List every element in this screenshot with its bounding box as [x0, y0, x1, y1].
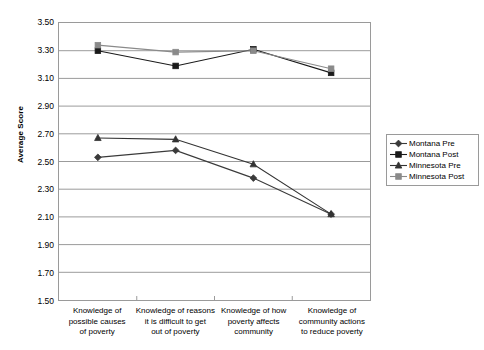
plot-svg — [59, 23, 370, 300]
y-tick-label: 2.30 — [20, 185, 54, 194]
data-point-marker — [396, 174, 402, 180]
data-point-marker — [395, 140, 402, 147]
y-tick-label: 2.50 — [20, 157, 54, 166]
x-axis-label-line: Knowledge of — [288, 306, 376, 317]
series-line-3 — [98, 45, 331, 69]
x-axis-label-1: Knowledge of reasonsit is difficult to g… — [131, 306, 219, 338]
data-point-marker — [94, 154, 101, 161]
x-axis-label-2: Knowledge of howpoverty affectscommunity — [210, 306, 298, 338]
legend-marker-diamond-icon — [389, 138, 408, 149]
x-axis-label-line: Knowledge of reasons — [131, 306, 219, 317]
legend-item-1[interactable]: Montana Post — [389, 149, 475, 160]
y-tick-label: 1.50 — [20, 297, 54, 306]
data-point-marker — [328, 66, 334, 72]
data-point-marker — [251, 48, 257, 54]
x-axis-label-line: poverty affects — [210, 317, 298, 328]
x-axis-label-line: it is difficult to get — [131, 317, 219, 328]
legend-label-3: Minnesota Post — [408, 171, 464, 182]
y-tick-label: 1.90 — [20, 241, 54, 250]
y-tick-label: 3.50 — [20, 18, 54, 27]
data-point-marker — [173, 63, 179, 69]
x-axis-label-line: out of poverty — [131, 327, 219, 338]
data-point-marker — [172, 147, 179, 154]
legend-marker-square-dark-icon — [389, 149, 408, 160]
x-axis-label-3: Knowledge ofcommunity actionsto reduce p… — [288, 306, 376, 338]
y-axis-tick-labels: 3.503.303.102.902.702.502.302.101.901.70… — [16, 0, 54, 350]
data-point-marker — [95, 42, 101, 48]
plot-area — [58, 22, 371, 301]
series-line-2 — [98, 138, 331, 214]
legend-marker-square-gray-icon — [389, 171, 408, 182]
y-tick-label: 3.30 — [20, 45, 54, 54]
legend-item-3[interactable]: Minnesota Post — [389, 171, 475, 182]
data-point-marker — [396, 152, 402, 158]
legend-label-1: Montana Post — [408, 149, 458, 160]
y-tick-label: 1.70 — [20, 269, 54, 278]
series-line-0 — [98, 150, 331, 214]
y-tick-label: 3.10 — [20, 73, 54, 82]
x-axis-label-0: Knowledge ofpossible causesof poverty — [53, 306, 141, 338]
x-axis-label-line: to reduce poverty — [288, 327, 376, 338]
x-axis-category-labels: Knowledge ofpossible causesof povertyKno… — [58, 306, 371, 348]
legend-item-0[interactable]: Montana Pre — [389, 138, 475, 149]
x-axis-label-line: of poverty — [53, 327, 141, 338]
legend-marker-triangle-icon — [389, 160, 408, 171]
x-axis-label-line: possible causes — [53, 317, 141, 328]
legend-label-2: Minnesota Pre — [408, 160, 461, 171]
legend-label-0: Montana Pre — [408, 138, 455, 149]
data-point-marker — [95, 48, 101, 54]
x-axis-label-line: community actions — [288, 317, 376, 328]
x-axis-label-line: Knowledge of — [53, 306, 141, 317]
chart-container: Average Score 3.503.303.102.902.702.502.… — [0, 0, 484, 350]
data-point-marker — [173, 49, 179, 55]
y-tick-label: 2.90 — [20, 101, 54, 110]
data-point-marker — [250, 175, 257, 182]
x-axis-label-line: community — [210, 327, 298, 338]
x-axis-label-line: Knowledge of how — [210, 306, 298, 317]
chart-legend: Montana PreMontana PostMinnesota PreMinn… — [386, 134, 479, 186]
y-tick-label: 2.70 — [20, 129, 54, 138]
legend-item-2[interactable]: Minnesota Pre — [389, 160, 475, 171]
y-tick-label: 2.10 — [20, 213, 54, 222]
